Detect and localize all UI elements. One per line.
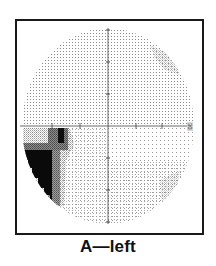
visual-field-plot bbox=[0, 0, 216, 266]
figure-caption: A—left bbox=[0, 237, 216, 257]
axis-end-label: 30 bbox=[187, 122, 193, 131]
